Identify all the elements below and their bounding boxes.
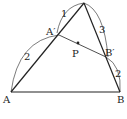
segment-A-prime-B-prime	[59, 35, 106, 57]
triangle-diagram: 1 2 3 2 A B A′ B′ P	[0, 0, 127, 119]
label-A-prime: A′	[45, 26, 56, 37]
label-B: B	[117, 94, 124, 105]
arc-label-2-right: 2	[115, 68, 121, 79]
label-P: P	[72, 48, 79, 59]
arc-label-1: 1	[61, 8, 67, 19]
label-A: A	[2, 94, 11, 105]
arc-label-3: 3	[99, 24, 105, 35]
point-P	[77, 42, 80, 45]
arc-label-2-left: 2	[24, 51, 30, 62]
label-B-prime: B′	[105, 47, 115, 58]
